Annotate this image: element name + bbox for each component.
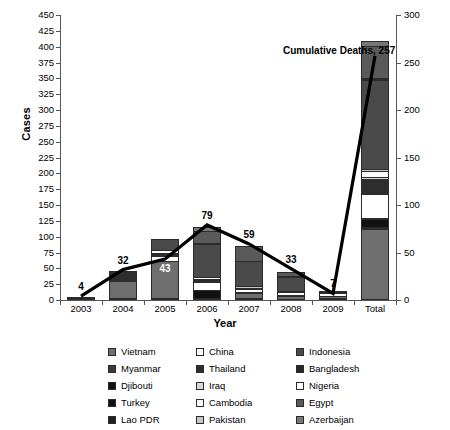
legend-swatch-icon: [296, 416, 304, 424]
bar-segment: [362, 81, 388, 170]
y-tick-label-left: 100: [20, 232, 54, 242]
legend-swatch-icon: [196, 348, 204, 356]
bar-segment: [152, 240, 178, 252]
y-tick-mark-left: [56, 237, 60, 238]
y-tick-label-right: 50: [404, 248, 434, 258]
legend-swatch-icon: [108, 399, 116, 407]
y-tick-label-right: 250: [404, 58, 434, 68]
y-tick-mark-left: [56, 268, 60, 269]
y-tick-mark-right: [397, 15, 401, 16]
legend-label: Vietnam: [121, 347, 156, 357]
bar-segment: [110, 272, 136, 282]
legend-item[interactable]: Thailand: [196, 364, 296, 374]
y-tick-mark-left: [56, 63, 60, 64]
legend-item[interactable]: Nigeria: [296, 381, 406, 391]
bar-segment: [320, 297, 346, 299]
bar-segment: [110, 282, 136, 299]
y-tick-mark-left: [56, 221, 60, 222]
x-tick-label: 2008: [268, 303, 314, 314]
y-tick-label-left: 375: [20, 58, 54, 68]
legend-item[interactable]: Azerbaijan: [296, 415, 406, 425]
stacked-bar[interactable]: [109, 271, 137, 300]
y-tick-label-left: 75: [20, 248, 54, 258]
bar-segment: [194, 291, 220, 298]
cumulative-deaths-annotation: Cumulative Deaths, 257: [283, 45, 395, 56]
chart-legend: VietnamChinaIndonesiaMyanmarThailandBang…: [108, 343, 418, 428]
x-tick-label: 2009: [310, 303, 356, 314]
x-tick-label: 2005: [142, 303, 188, 314]
y-tick-label-left: 0: [20, 295, 54, 305]
legend-swatch-icon: [108, 348, 116, 356]
legend-label: Cambodia: [209, 398, 252, 408]
bar-segment: [236, 262, 262, 288]
y-tick-mark-right: [397, 110, 401, 111]
y-tick-label-left: 425: [20, 26, 54, 36]
legend-swatch-icon: [108, 416, 116, 424]
legend-label: Nigeria: [309, 381, 339, 391]
y-tick-label-right: 150: [404, 153, 434, 163]
x-tick-label: 2007: [226, 303, 272, 314]
legend-label: Egypt: [309, 398, 333, 408]
legend-item[interactable]: Bangladesh: [296, 364, 406, 374]
x-tick-label: Total: [352, 303, 398, 314]
legend-item[interactable]: Djibouti: [108, 381, 196, 391]
legend-label: Bangladesh: [309, 364, 359, 374]
legend-label: Azerbaijan: [309, 415, 354, 425]
legend-swatch-icon: [196, 399, 204, 407]
legend-item[interactable]: Cambodia: [196, 398, 296, 408]
line-data-label: 32: [100, 255, 146, 266]
line-data-label: 33: [268, 254, 314, 265]
y-tick-label-left: 450: [20, 10, 54, 20]
y-tick-label-left: 50: [20, 263, 54, 273]
stacked-bar[interactable]: [319, 291, 347, 301]
legend-swatch-icon: [296, 365, 304, 373]
legend-item[interactable]: Vietnam: [108, 347, 196, 357]
stacked-bar[interactable]: [277, 272, 305, 301]
y-tick-mark-left: [56, 253, 60, 254]
bar-segment: [278, 278, 304, 292]
legend-item[interactable]: Myanmar: [108, 364, 196, 374]
legend-item[interactable]: China: [196, 347, 296, 357]
legend-label: China: [209, 347, 234, 357]
stacked-bar[interactable]: [361, 41, 389, 300]
bar-segment: [236, 294, 262, 299]
legend-item[interactable]: Lao PDR: [108, 415, 196, 425]
line-data-label: 59: [226, 229, 272, 240]
line-data-label: 43: [142, 263, 188, 274]
legend-item[interactable]: Iraq: [196, 381, 296, 391]
y-tick-mark-left: [56, 158, 60, 159]
y-tick-label-left: 200: [20, 168, 54, 178]
y-tick-label-left: 400: [20, 42, 54, 52]
x-tick-label: 2003: [58, 303, 104, 314]
bar-segment: [194, 245, 220, 279]
y-tick-label-left: 300: [20, 105, 54, 115]
y-tick-mark-right: [397, 253, 401, 254]
legend-item[interactable]: Pakistan: [196, 415, 296, 425]
bar-segment: [236, 247, 262, 262]
legend-item[interactable]: Turkey: [108, 398, 196, 408]
y-tick-label-left: 25: [20, 279, 54, 289]
y-tick-mark-left: [56, 15, 60, 16]
y-tick-label-right: 0: [404, 295, 434, 305]
stacked-bar[interactable]: [67, 297, 95, 300]
legend-item[interactable]: Indonesia: [296, 347, 406, 357]
y-tick-mark-right: [397, 300, 401, 301]
x-tick-label: 2004: [100, 303, 146, 314]
legend-swatch-icon: [296, 348, 304, 356]
y-tick-label-left: 275: [20, 121, 54, 131]
y-tick-label-right: 200: [404, 105, 434, 115]
legend-item[interactable]: Egypt: [296, 398, 406, 408]
stacked-bar[interactable]: [193, 227, 221, 300]
legend-swatch-icon: [196, 365, 204, 373]
y-tick-label-right: 300: [404, 10, 434, 20]
stacked-bar[interactable]: [235, 246, 263, 300]
legend-swatch-icon: [108, 382, 116, 390]
bar-segment: [194, 232, 220, 243]
y-axis-left-line: [60, 15, 61, 301]
y-tick-mark-left: [56, 47, 60, 48]
bar-segment: [194, 299, 220, 300]
legend-label: Indonesia: [309, 347, 350, 357]
bar-segment: [194, 283, 220, 291]
legend-label: Djibouti: [121, 381, 153, 391]
chart-figure: Cases Year 45042540037535032530027525022…: [0, 0, 450, 430]
